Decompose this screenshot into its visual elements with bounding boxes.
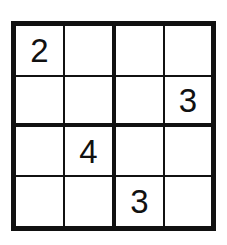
cell-r1c2[interactable] — [116, 77, 163, 123]
cell-r0c1[interactable] — [65, 26, 112, 75]
cell-r0c0[interactable]: 2 — [16, 26, 63, 75]
cell-r0c3[interactable] — [165, 26, 211, 75]
cell-r2c2[interactable] — [116, 127, 163, 175]
cell-r3c0[interactable] — [16, 177, 63, 226]
cell-r3c3[interactable] — [165, 177, 211, 226]
cell-r3c1[interactable] — [65, 177, 112, 226]
cell-r2c0[interactable] — [16, 127, 63, 175]
cell-r1c1[interactable] — [65, 77, 112, 123]
sudoku-board: 2 3 4 3 — [11, 21, 216, 231]
cell-r1c3[interactable]: 3 — [165, 77, 211, 123]
cell-r0c2[interactable] — [116, 26, 163, 75]
cell-r2c1[interactable]: 4 — [65, 127, 112, 175]
cell-r3c2[interactable]: 3 — [116, 177, 163, 226]
cell-r1c0[interactable] — [16, 77, 63, 123]
cell-r2c3[interactable] — [165, 127, 211, 175]
